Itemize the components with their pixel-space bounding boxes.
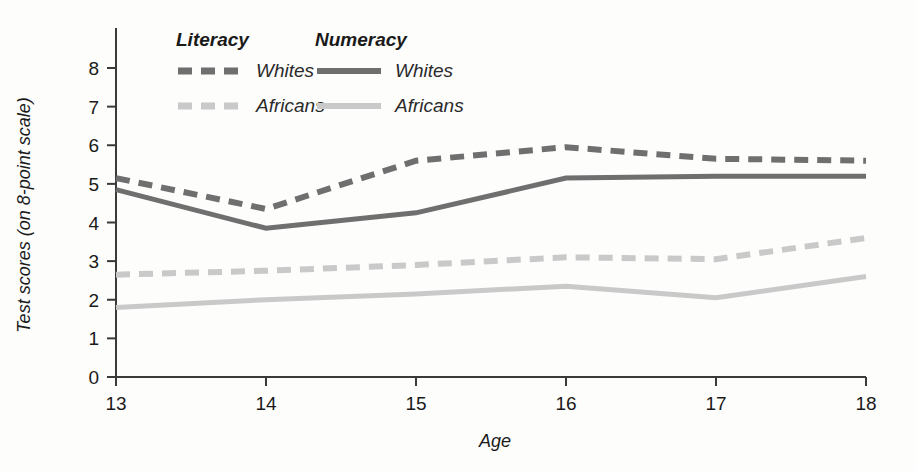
line-chart: 012345678 131415161718 Test scores (on 8… bbox=[0, 0, 916, 471]
legend-group-title: Literacy bbox=[176, 29, 250, 50]
y-axis-ticks bbox=[107, 68, 116, 377]
x-axis-ticks bbox=[116, 377, 866, 386]
x-axis-title: Age bbox=[478, 431, 511, 451]
x-tick-label: 13 bbox=[105, 393, 126, 414]
x-tick-label: 16 bbox=[555, 393, 576, 414]
legend-group-title: Numeracy bbox=[315, 29, 408, 50]
y-tick-label: 0 bbox=[88, 367, 99, 388]
y-tick-label: 7 bbox=[88, 97, 99, 118]
axis-group bbox=[107, 28, 866, 386]
series-line-literacy-africans bbox=[116, 238, 866, 275]
y-axis-title: Test scores (on 8-point scale) bbox=[14, 97, 34, 332]
x-tick-label: 15 bbox=[405, 393, 426, 414]
legend-label-literacy-whites: Whites bbox=[256, 60, 315, 81]
legend-label-literacy-africans: Africans bbox=[255, 95, 325, 116]
chart-figure: 012345678 131415161718 Test scores (on 8… bbox=[0, 0, 916, 471]
x-tick-label: 18 bbox=[855, 393, 876, 414]
y-tick-label: 1 bbox=[88, 328, 99, 349]
legend-label-numeracy-whites: Whites bbox=[395, 60, 454, 81]
y-tick-label: 8 bbox=[88, 58, 99, 79]
series-line-numeracy-africans bbox=[116, 277, 866, 308]
x-tick-label: 14 bbox=[255, 393, 277, 414]
y-axis-tick-labels: 012345678 bbox=[88, 58, 99, 388]
y-tick-label: 6 bbox=[88, 135, 99, 156]
y-tick-label: 4 bbox=[88, 213, 99, 234]
data-series-group bbox=[116, 147, 866, 307]
chart-legend: LiteracyWhitesAfricansNumeracyWhitesAfri… bbox=[176, 29, 464, 116]
y-tick-label: 3 bbox=[88, 251, 99, 272]
legend-label-numeracy-africans: Africans bbox=[394, 95, 464, 116]
x-tick-label: 17 bbox=[705, 393, 726, 414]
x-axis-tick-labels: 131415161718 bbox=[105, 393, 876, 414]
y-tick-label: 2 bbox=[88, 290, 99, 311]
y-tick-label: 5 bbox=[88, 174, 99, 195]
